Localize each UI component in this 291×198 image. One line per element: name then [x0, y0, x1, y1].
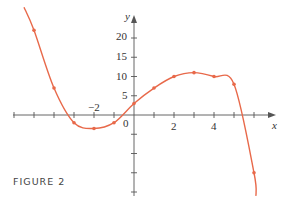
- data-point: [212, 75, 216, 79]
- data-point: [232, 82, 236, 86]
- x-tick-label: 0: [123, 117, 129, 129]
- x-tick-label: 4: [211, 120, 217, 132]
- function-curve: [24, 7, 256, 196]
- x-tick-label: 2: [171, 120, 177, 132]
- x-axis-arrow-icon: [268, 112, 276, 118]
- data-point: [92, 127, 96, 131]
- data-points: [32, 29, 256, 175]
- y-tick-label: 15: [116, 50, 128, 62]
- x-axis-label: x: [271, 119, 277, 131]
- chart-plot: −2 0 2 4 5 10 15 20 x y: [0, 0, 291, 198]
- data-point: [32, 29, 36, 33]
- y-tick-label: 20: [116, 30, 128, 42]
- y-axis-arrow-icon: [131, 15, 137, 23]
- data-point: [192, 71, 196, 75]
- data-point: [72, 121, 76, 125]
- data-point: [132, 102, 136, 106]
- data-point: [252, 171, 256, 175]
- y-tick-label: 10: [116, 70, 128, 82]
- data-point: [112, 121, 116, 125]
- x-tick-label: −2: [88, 101, 100, 113]
- figure-caption: FIGURE 2: [13, 176, 65, 187]
- data-point: [172, 75, 176, 79]
- data-point: [152, 86, 156, 90]
- y-tick-label: 5: [122, 89, 128, 101]
- data-point: [52, 86, 56, 90]
- y-axis-label: y: [124, 10, 130, 22]
